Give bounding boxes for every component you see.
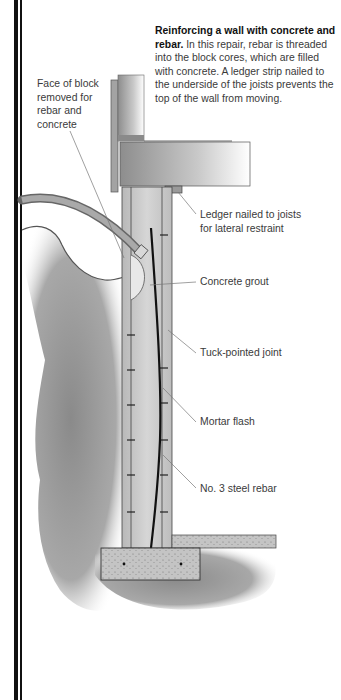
label-mortar-flash: Mortar flash [200, 415, 255, 429]
label-line: rebar and [37, 104, 99, 118]
label-face-of-block: Face of block removed for rebar and conc… [37, 77, 99, 131]
label-concrete-grout: Concrete grout [200, 275, 269, 289]
figure-caption: Reinforcing a wall with concrete and reb… [155, 24, 340, 106]
label-line: Ledger nailed to joists [200, 208, 301, 222]
label-line: concrete [37, 118, 99, 132]
label-line: Face of block [37, 77, 99, 91]
label-steel-rebar: No. 3 steel rebar [200, 482, 277, 496]
label-line: for lateral restraint [200, 222, 301, 236]
label-ledger: Ledger nailed to joists for lateral rest… [200, 208, 301, 235]
label-line: removed for [37, 91, 99, 105]
label-tuck-pointed-joint: Tuck-pointed joint [200, 346, 282, 360]
